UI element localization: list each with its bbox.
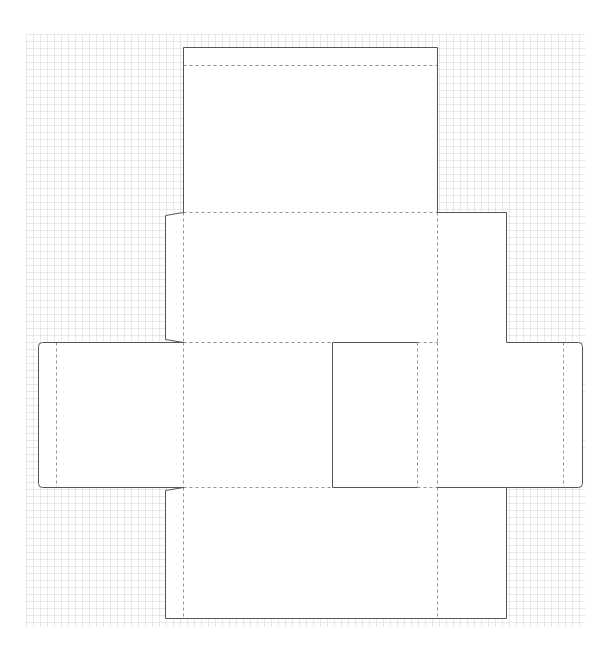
back-panel bbox=[183, 212, 437, 342]
back-side-flap bbox=[437, 212, 506, 342]
bottom-panel bbox=[183, 487, 437, 618]
left-side-flap bbox=[38, 342, 183, 487]
bottom-side-flap bbox=[437, 487, 506, 618]
top-lid-panel bbox=[183, 47, 437, 212]
base-panel bbox=[183, 342, 332, 487]
front-panel bbox=[332, 342, 417, 487]
glue-strip bbox=[417, 342, 437, 487]
box-dieline-diagram bbox=[0, 0, 610, 654]
right-side-flap bbox=[437, 342, 582, 487]
